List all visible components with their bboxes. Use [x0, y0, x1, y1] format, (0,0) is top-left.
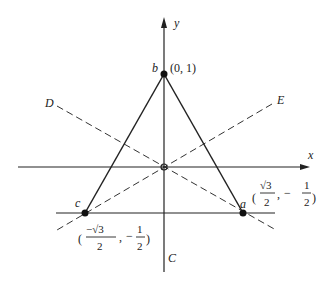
point-a-y-sign: −	[284, 186, 291, 200]
paren-right: )	[312, 191, 316, 205]
y-axis-arrow-icon	[161, 17, 167, 28]
point-a-x-numerator: √3	[260, 179, 272, 191]
point-c-x-numerator: −√3	[86, 223, 104, 235]
point-b-name: b	[152, 61, 158, 75]
point-c-y-denominator: 2	[137, 240, 143, 252]
line-label-E: E	[276, 93, 285, 107]
point-b-coord: (0, 1)	[170, 61, 196, 75]
point-a-x-denominator: 2	[264, 196, 270, 208]
comma: ,	[119, 230, 122, 244]
paren-right: )	[146, 232, 150, 246]
point-c-name: c	[75, 196, 81, 210]
triangle-symmetry-diagram: y x D E C b (0, 1) c ( −√3 2 , − 1 2 ) a…	[0, 0, 333, 282]
point-a-y-numerator: 1	[304, 179, 310, 191]
point-c	[82, 210, 89, 217]
paren-left: (	[252, 191, 256, 205]
y-axis-label: y	[173, 16, 180, 30]
x-axis-arrow-icon	[300, 164, 310, 170]
point-a-coord: ( √3 2 , − 1 2 )	[252, 179, 316, 208]
triangle-side-cb	[85, 74, 164, 213]
comma: ,	[277, 187, 280, 201]
point-c-coord: ( −√3 2 , − 1 2 )	[78, 223, 150, 252]
triangle-side-ba	[164, 74, 243, 213]
point-c-y-sign: −	[126, 229, 133, 243]
x-axis-label: x	[307, 148, 314, 162]
line-label-C: C	[168, 251, 177, 265]
point-c-x-denominator: 2	[97, 240, 103, 252]
point-a-y-denominator: 2	[304, 196, 310, 208]
point-b	[161, 71, 168, 78]
line-label-D: D	[44, 96, 54, 110]
point-a-name: a	[240, 197, 246, 211]
point-c-y-numerator: 1	[137, 223, 143, 235]
paren-left: (	[78, 232, 82, 246]
